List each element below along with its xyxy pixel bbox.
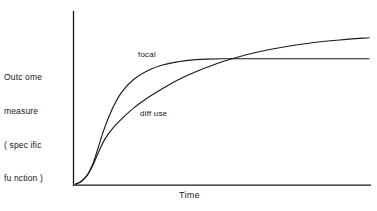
chart-figure: Outc ome measure ( spec ific fu nction )…	[0, 0, 377, 211]
x-axis-title: Time	[179, 190, 200, 200]
y-axis-title-line-4: fu nction )	[4, 173, 70, 184]
y-axis-title-line-3: ( spec ific	[4, 140, 70, 151]
y-axis-title: Outc ome measure ( spec ific fu nction )	[4, 50, 70, 207]
series-label-focal: focal	[138, 50, 156, 59]
series-label-diffuse: diff use	[140, 109, 167, 118]
series-line-diffuse	[76, 38, 370, 184]
y-axis-title-line-1: Outc ome	[4, 72, 70, 83]
y-axis-title-line-2: measure	[4, 106, 70, 117]
